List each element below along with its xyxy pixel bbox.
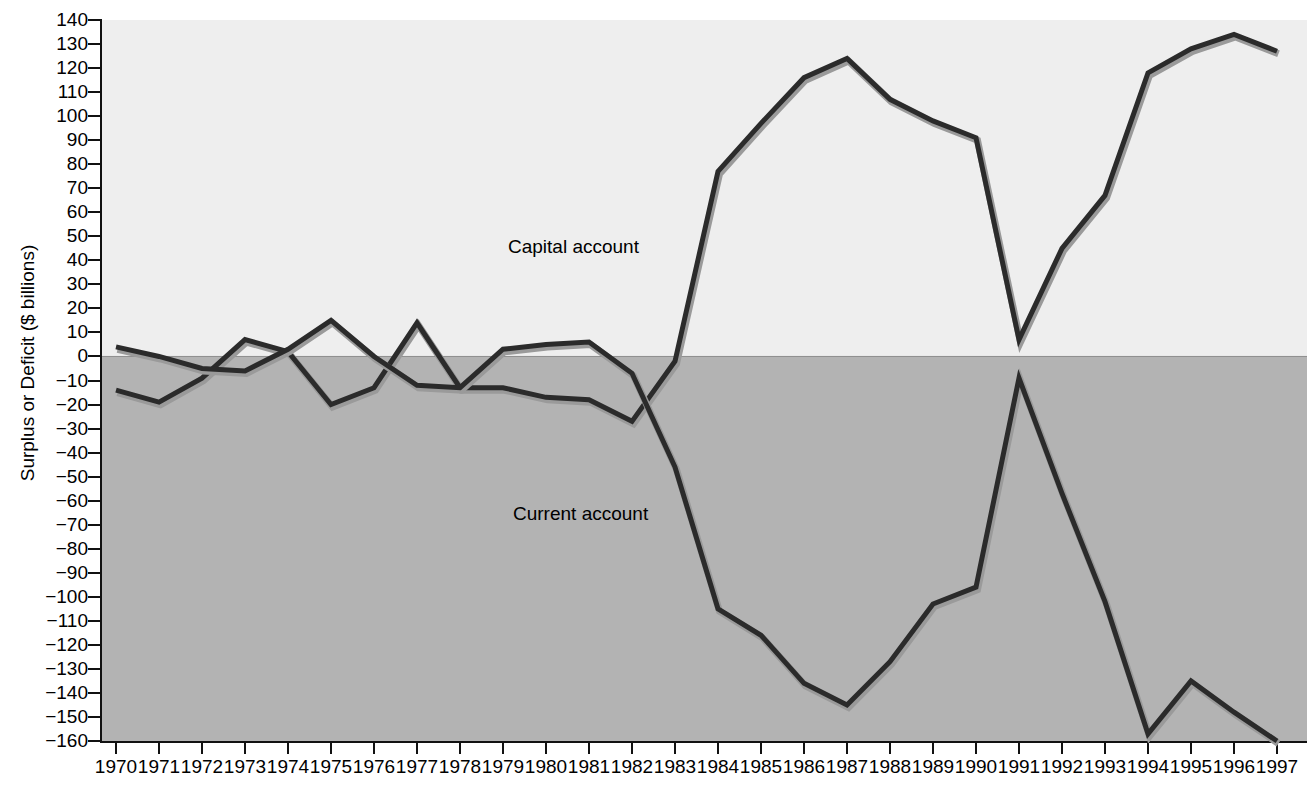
chart-page: 1401301201101009080706050403020100−10−20… [0, 0, 1307, 795]
series-label-current-account: Current account [513, 503, 648, 525]
series-lines [0, 0, 1307, 795]
series-line-current-account [116, 320, 1277, 741]
series-line-shadow-current [118, 323, 1279, 744]
series-line-capital-account [116, 34, 1277, 421]
series-line-shadow-capital [118, 37, 1279, 424]
series-label-capital-account: Capital account [508, 236, 639, 258]
